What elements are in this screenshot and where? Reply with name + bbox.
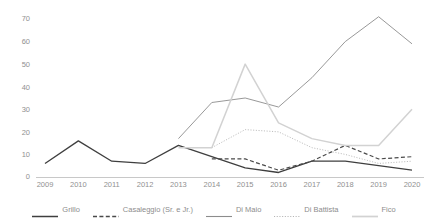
- legend-label: Di Maio: [236, 205, 261, 214]
- legend-swatch-icon: [32, 206, 58, 213]
- legend-item[interactable]: Di Maio: [206, 205, 261, 214]
- chart-legend: GrilloCasaleggio (Sr. e Jr.)Di MaioDi Ba…: [0, 199, 428, 219]
- legend-label: Grillo: [62, 205, 80, 214]
- legend-item[interactable]: Grillo: [32, 205, 80, 214]
- x-tick-label: 2020: [392, 180, 428, 189]
- legend-swatch-icon: [206, 206, 232, 213]
- series-line: [178, 17, 412, 139]
- legend-item[interactable]: Casaleggio (Sr. e Jr.): [93, 205, 193, 214]
- legend-swatch-icon: [352, 206, 378, 213]
- legend-label: Di Battista: [304, 205, 338, 214]
- legend-swatch-icon: [274, 206, 300, 213]
- legend-swatch-icon: [93, 206, 119, 213]
- series-plot: [0, 0, 428, 223]
- legend-label: Fico: [382, 205, 396, 214]
- legend-label: Casaleggio (Sr. e Jr.): [123, 205, 193, 214]
- legend-item[interactable]: Di Battista: [274, 205, 338, 214]
- series-line: [178, 64, 412, 148]
- line-chart: 70 60 50 40 30 20 10 0 20092010201120122…: [0, 0, 428, 223]
- legend-item[interactable]: Fico: [352, 205, 396, 214]
